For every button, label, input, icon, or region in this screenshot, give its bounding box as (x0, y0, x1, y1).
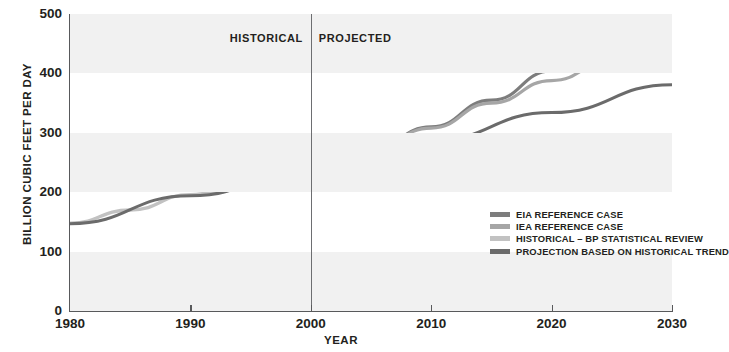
legend-item: EIA REFERENCE CASE (490, 208, 729, 220)
y-axis-line (69, 14, 70, 312)
x-tick-mark (431, 305, 432, 311)
x-tick-label: 2010 (401, 316, 461, 331)
legend-label: HISTORICAL – BP STATISTICAL REVIEW (516, 233, 703, 244)
legend-swatch (490, 224, 510, 229)
legend-swatch (490, 212, 510, 217)
x-tick-mark (190, 305, 191, 311)
x-tick-label: 1980 (40, 316, 100, 331)
legend-item: HISTORICAL – BP STATISTICAL REVIEW (490, 233, 729, 245)
band-200-300 (70, 133, 672, 192)
x-tick-label: 2030 (642, 316, 702, 331)
legend-label: PROJECTION BASED ON HISTORICAL TREND (516, 246, 729, 257)
y-tick-label: 500 (18, 7, 62, 21)
era-divider-line (311, 14, 312, 311)
x-tick-label: 1990 (160, 316, 220, 331)
y-tick-label: 100 (18, 245, 62, 259)
legend-label: EIA REFERENCE CASE (516, 209, 623, 220)
legend-label: IEA REFERENCE CASE (516, 221, 623, 232)
y-tick-label: 300 (18, 126, 62, 140)
x-axis-title: YEAR (0, 334, 682, 346)
legend-item: PROJECTION BASED ON HISTORICAL TREND (490, 245, 729, 257)
x-tick-mark (311, 305, 312, 311)
x-tick-mark (672, 305, 673, 311)
x-tick-label: 2000 (281, 316, 341, 331)
x-tick-label: 2020 (522, 316, 582, 331)
x-axis-line (69, 311, 673, 312)
y-tick-label: 200 (18, 185, 62, 199)
legend-swatch (490, 249, 510, 254)
legend-swatch (490, 236, 510, 241)
legend-item: IEA REFERENCE CASE (490, 220, 729, 232)
band-0-100 (70, 252, 672, 311)
projected-region-label: PROJECTED (319, 32, 392, 44)
y-tick-label: 400 (18, 66, 62, 80)
y-axis-tick-labels: 0100200300400500 (10, 0, 62, 352)
plot-area: HISTORICAL PROJECTED EIA REFERENCE CASEI… (70, 14, 672, 311)
historical-region-label: HISTORICAL (230, 32, 303, 44)
legend: EIA REFERENCE CASEIEA REFERENCE CASEHIST… (490, 208, 729, 258)
x-tick-mark (552, 305, 553, 311)
